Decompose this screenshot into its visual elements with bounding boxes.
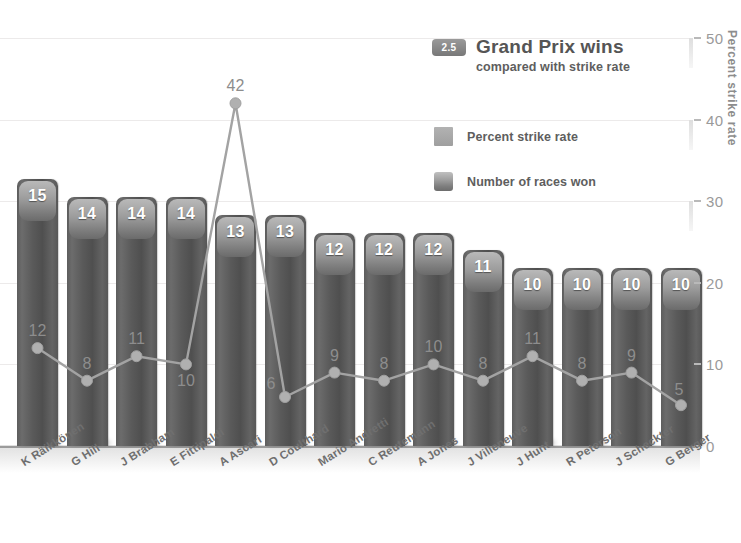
line-data-point[interactable] [329,367,340,378]
line-data-point[interactable] [230,98,241,109]
line-data-point[interactable] [428,359,439,370]
line-value-label: 42 [227,77,245,95]
line-value-label: 10 [177,372,195,390]
line-value-label: 9 [627,347,636,365]
line-value-label: 8 [380,355,389,373]
legend-item-percent-strike-rate: Percent strike rate [434,127,682,146]
line-value-label: 9 [330,347,339,365]
line-value-label: 8 [578,355,587,373]
flat-square-swatch-icon [434,127,453,146]
y-axis-tick-mark [694,119,701,121]
line-value-label: 5 [675,381,684,399]
line-data-point[interactable] [626,367,637,378]
line-value-label: 10 [425,338,443,356]
line-data-point[interactable] [32,343,43,354]
line-data-point[interactable] [82,375,93,386]
line-value-label: 11 [524,330,541,348]
line-value-label: 6 [267,375,276,393]
chart-subtitle: compared with strike rate [476,60,682,74]
line-data-point[interactable] [478,375,489,386]
line-value-label: 8 [83,355,92,373]
chart-legend: 2.5 Grand Prix wins compared with strike… [432,36,682,191]
chart-canvas: 1514141413131212121110101010 12811104269… [0,0,741,543]
line-value-label: 8 [479,355,488,373]
legend-item-number-of-races-won: Number of races won [434,172,682,191]
line-data-point[interactable] [676,400,687,411]
bar-swatch-icon [434,172,453,191]
y-axis-tick-label: 10 [706,356,724,373]
y-axis-title: Percent strike rate [725,30,739,146]
legend-item-label: Percent strike rate [467,130,578,144]
value-badge: 2.5 [432,39,466,56]
y-axis-tick-label: 20 [706,274,724,291]
y-axis-tick-mark [694,282,701,284]
chart-title: Grand Prix wins [476,36,624,57]
line-data-point[interactable] [577,375,588,386]
y-axis-tick-mark [694,363,701,365]
y-axis-tick-label: 40 [706,111,724,128]
legend-item-label: Number of races won [467,175,596,189]
line-value-label: 12 [29,322,47,340]
line-data-point[interactable] [527,351,538,362]
y-axis-tick-mark [694,200,701,202]
line-data-point[interactable] [379,375,390,386]
line-data-point[interactable] [280,392,291,403]
y-axis-tick-label: 50 [706,30,724,47]
y-axis-tick-mark [694,37,701,39]
legend-title-row: 2.5 Grand Prix wins [432,36,682,57]
line-value-label: 11 [128,330,145,348]
line-data-point[interactable] [181,359,192,370]
y-axis-tick-label: 30 [706,193,724,210]
line-data-point[interactable] [131,351,142,362]
